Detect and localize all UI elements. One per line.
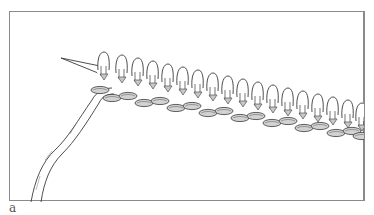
yarn-strand-icon bbox=[31, 88, 114, 202]
figure-label: a bbox=[9, 201, 16, 215]
knitting-illustration bbox=[0, 0, 374, 215]
